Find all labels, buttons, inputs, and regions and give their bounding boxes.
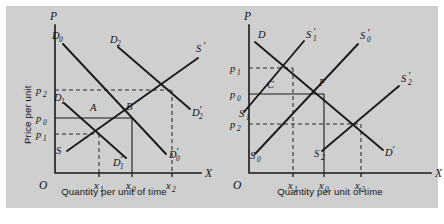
price-tick-p0-sub-right: 0	[237, 94, 241, 103]
curve-label-D1prime: D ′ 1	[112, 154, 124, 171]
price-tick-p2-sub-right: 2	[237, 124, 241, 133]
figure-container: P X O p 2 p 0 p 1 x 1 x 0	[6, 6, 438, 208]
curve-label-Sprime-base: S	[196, 43, 202, 54]
curve-D0-D0prime	[63, 44, 166, 154]
price-tick-p0-base-right: p	[229, 89, 235, 100]
axis-lines-right	[249, 25, 431, 173]
curve-label-D2-sub: 2	[117, 39, 121, 48]
curve-label-Dprime-mark: ′	[392, 144, 395, 155]
price-tick-p2-right: p 2	[229, 119, 241, 133]
curve-label-S2-sub: 2	[321, 153, 325, 162]
curve-label-D-base-right: D	[257, 29, 266, 40]
price-tick-p1-sub-left: 1	[43, 134, 47, 143]
curve-label-S0prime: S ′ 0	[360, 27, 371, 44]
curve-label-S0-base: S	[250, 150, 256, 161]
curve-S0-S0prime	[255, 44, 358, 154]
plot-right: P X O p 1 p 0 p 2 x 1 x 0	[222, 6, 438, 208]
curve-label-D0: D 0	[51, 30, 63, 44]
curve-label-S: S	[56, 145, 62, 156]
x-caption-right: Quantity per unit of time	[222, 186, 438, 197]
curve-label-D1-sub: 1	[61, 97, 65, 106]
curve-label-D0prime-sub: 0	[176, 154, 180, 163]
panel-right-supply-shifts: P X O p 1 p 0 p 2 x 1 x 0	[222, 6, 438, 208]
curve-label-S1prime: S ′ 1	[306, 26, 317, 43]
curve-label-S-base: S	[56, 145, 62, 156]
price-tick-p1-base-right: p	[229, 63, 235, 74]
curve-label-S1: S 1	[239, 108, 250, 122]
curve-label-S1-sub: 1	[246, 113, 250, 122]
curve-label-D-right: D	[257, 29, 266, 40]
point-c-label: C	[267, 79, 275, 90]
price-tick-p1-right: p 1	[229, 63, 241, 77]
curve-label-Sprime: S ′	[196, 40, 206, 54]
curve-D2-D2prime	[118, 47, 190, 109]
point-f-label: F	[318, 77, 326, 88]
x-axis-symbol-right: X	[434, 167, 443, 179]
point-b-label: B	[126, 101, 133, 112]
price-tick-p1-left: p 1	[35, 129, 47, 143]
y-axis-symbol-right: P	[243, 10, 251, 22]
price-tick-p0-right: p 0	[229, 89, 241, 103]
curve-label-D2prime: D ′ 2	[191, 104, 203, 121]
curve-label-S0prime-sub: 0	[367, 35, 371, 44]
panel-left-demand-shifts: P X O p 2 p 0 p 1 x 1 x 0	[6, 6, 222, 208]
price-tick-p2-base-left: p	[35, 85, 41, 96]
x-caption-left: Quantity per unit of time	[6, 186, 222, 197]
curve-label-S1prime-sub: 1	[313, 34, 317, 43]
curve-label-S2-base: S	[314, 148, 320, 159]
x-axis-symbol-left: X	[204, 167, 213, 179]
price-tick-p0-left: p 0	[35, 113, 47, 127]
price-tick-p1-sub-right: 1	[237, 68, 241, 77]
curve-label-D0-sub: 0	[59, 35, 63, 44]
curve-label-Sprime-mark: ′	[203, 40, 206, 51]
y-caption-left: Price per unit	[22, 85, 33, 144]
curve-label-S0prime-base: S	[360, 30, 366, 41]
curve-label-S2prime: S ′ 2	[401, 70, 412, 87]
curve-label-D1prime-sub: 1	[120, 162, 124, 171]
price-tick-p0-base-left: p	[35, 113, 41, 124]
price-tick-p0-sub-left: 0	[43, 118, 47, 127]
curve-label-D2: D 2	[109, 34, 121, 48]
plot-left: P X O p 2 p 0 p 1 x 1 x 0	[6, 6, 222, 208]
curve-label-S1-base: S	[239, 108, 245, 119]
price-tick-p2-left: p 2	[35, 85, 47, 99]
point-a-label: A	[89, 102, 97, 113]
y-axis-symbol-left: P	[49, 10, 57, 22]
curve-label-D0prime: D ′ 0	[168, 146, 180, 163]
price-tick-p2-sub-left: 2	[43, 90, 47, 99]
curve-label-S1prime-base: S	[306, 29, 312, 40]
curve-label-S0-sub: 0	[257, 155, 261, 164]
price-tick-p2-base-right: p	[229, 119, 235, 130]
curve-label-S2prime-sub: 2	[408, 78, 412, 87]
curve-label-D2prime-sub: 2	[199, 112, 203, 121]
curve-label-S2prime-base: S	[401, 73, 407, 84]
price-tick-p1-base-left: p	[35, 129, 41, 140]
curve-label-Dprime-right: D ′	[384, 144, 395, 158]
